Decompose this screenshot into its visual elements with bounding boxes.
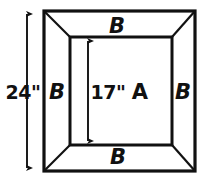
inner-region-label-a: A — [132, 82, 148, 103]
border-top-label-b: B — [109, 16, 125, 37]
outer-dimension-label: 24" — [6, 83, 41, 102]
border-right-label-b: B — [175, 82, 191, 103]
border-bottom-label-b: B — [110, 147, 126, 168]
frame-diagram: 24" 17" A B B B B — [0, 0, 206, 183]
inner-dimension-label: 17" — [91, 83, 126, 102]
border-left-label-b: B — [49, 82, 65, 103]
